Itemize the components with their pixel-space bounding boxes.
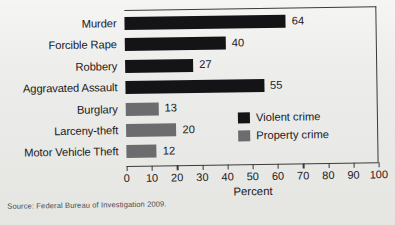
x-tick-label: 30 <box>196 171 208 183</box>
x-tick-label: 70 <box>297 169 309 181</box>
x-tick-label: 40 <box>221 170 233 182</box>
bar-value-label: 27 <box>199 58 212 72</box>
x-tick-label: 100 <box>370 168 389 180</box>
bar <box>126 145 156 158</box>
x-tick-label: 90 <box>347 169 359 181</box>
bar <box>125 37 226 51</box>
category-label: Aggravated Assault <box>0 81 118 95</box>
category-label: Larceny-theft <box>0 124 118 138</box>
x-tick <box>227 165 228 170</box>
x-tick <box>127 166 128 171</box>
x-tick <box>152 166 153 171</box>
bar-value-label: 40 <box>232 36 245 50</box>
bar-value-label: 55 <box>270 78 283 92</box>
bar <box>124 15 285 30</box>
x-tick <box>379 162 380 167</box>
x-tick <box>202 165 203 170</box>
x-tick <box>328 163 329 168</box>
category-label: Robbery <box>0 60 117 74</box>
bar-value-label: 64 <box>292 14 305 28</box>
bar-chart-figure: MurderForcible RapeRobberyAggravated Ass… <box>0 0 395 225</box>
category-label: Motor Vehicle Theft <box>0 146 118 160</box>
category-label: Burglary <box>0 103 118 117</box>
legend-label: Property crime <box>256 128 329 141</box>
x-axis-title: Percent <box>127 183 379 199</box>
bar-row: 40 <box>125 35 377 52</box>
x-tick-label: 80 <box>322 169 334 181</box>
category-label: Forcible Rape <box>0 39 117 53</box>
legend-swatch <box>238 112 250 123</box>
bar-value-label: 20 <box>182 123 195 137</box>
legend-swatch <box>238 130 250 141</box>
x-tick-label: 20 <box>171 171 183 183</box>
chart-legend: Violent crimeProperty crime <box>238 110 329 147</box>
x-tick <box>253 164 254 169</box>
bar <box>125 59 193 73</box>
category-label: Murder <box>0 17 117 31</box>
legend-item: Violent crime <box>238 110 329 123</box>
x-tick-label: 60 <box>272 170 284 182</box>
bar-row: 64 <box>124 13 376 30</box>
category-axis-labels: MurderForcible RapeRobberyAggravated Ass… <box>0 10 123 168</box>
legend-label: Violent crime <box>256 110 321 123</box>
bar <box>126 102 159 115</box>
bar <box>126 123 177 137</box>
x-tick-label: 10 <box>146 172 158 184</box>
x-tick-label: 0 <box>124 172 130 184</box>
x-tick <box>303 163 304 168</box>
x-tick-label: 50 <box>247 170 259 182</box>
bar-value-label: 13 <box>164 101 177 115</box>
x-tick <box>353 163 354 168</box>
bar <box>125 79 264 94</box>
x-tick <box>278 164 279 169</box>
bar-value-label: 12 <box>163 144 176 158</box>
bar-row: 55 <box>125 78 377 95</box>
bar-row: 27 <box>125 56 377 73</box>
source-note: Source: Federal Bureau of Investigation … <box>7 199 167 210</box>
x-tick <box>177 165 178 170</box>
legend-item: Property crime <box>238 128 329 141</box>
